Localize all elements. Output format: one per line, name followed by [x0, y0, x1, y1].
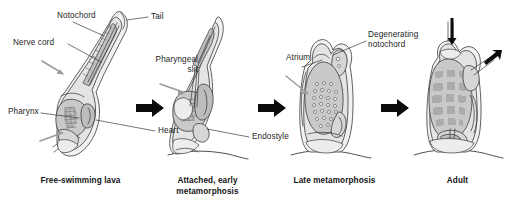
stage-2-pointer-arrow	[160, 84, 185, 96]
caption-stage-3: Late metamorphosis	[272, 176, 397, 187]
caption-stage-4: Adult	[410, 176, 505, 187]
arrow-stage3-to-stage4	[381, 99, 409, 117]
label-endostyle: Endostyle	[252, 132, 289, 142]
stage-1-artwork	[53, 12, 127, 156]
stage-4-artwork	[414, 18, 503, 158]
caption-stage-2: Attached, early metamorphosis	[150, 176, 265, 197]
tunicate-metamorphosis-figure: Notochord Nerve cord Tail Pharynx Heart …	[0, 0, 527, 211]
arrow-stage2-to-stage3	[258, 99, 286, 117]
label-pharynx: Pharynx	[8, 107, 39, 117]
label-atrium: Atrium	[286, 53, 310, 63]
label-notochord: Notochord	[57, 11, 96, 21]
label-tail: Tail	[151, 12, 164, 22]
label-heart: Heart	[158, 126, 179, 136]
stage-2-artwork	[168, 17, 248, 159]
label-pharyngeal-slit: Pharyngeal slit	[146, 55, 198, 74]
arrow-stage1-to-stage2	[136, 99, 164, 117]
caption-stage-1: Free-swimming lava	[13, 176, 148, 187]
label-degenerating-notochord: Degenerating notochord	[368, 30, 418, 49]
label-nerve-cord: Nerve cord	[13, 38, 54, 48]
